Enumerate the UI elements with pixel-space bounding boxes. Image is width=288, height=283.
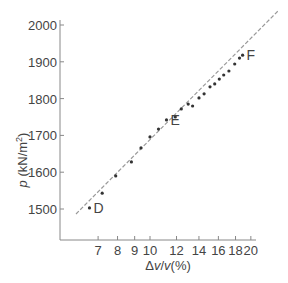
data-point xyxy=(208,85,211,88)
data-point xyxy=(130,160,133,163)
x-tick-label: 20 xyxy=(244,243,258,258)
data-point xyxy=(218,78,221,81)
x-axis-title: Δv/v(%) xyxy=(145,258,191,273)
point-label-d: D xyxy=(94,200,104,216)
x-tick-label: 18 xyxy=(228,243,242,258)
x-axis-ticks: 789101214161820 xyxy=(94,236,258,258)
x-tick-label: 12 xyxy=(169,243,183,258)
point-label-e: E xyxy=(170,112,179,128)
y-tick-label: 1800 xyxy=(28,92,57,107)
data-point xyxy=(191,104,194,107)
point-label-f: F xyxy=(247,47,256,63)
data-point xyxy=(203,92,206,95)
data-point xyxy=(148,135,151,138)
data-point xyxy=(241,54,244,57)
data-point xyxy=(180,107,183,110)
x-tick-label: 7 xyxy=(94,243,101,258)
x-tick-label: 14 xyxy=(192,243,206,258)
data-point xyxy=(222,73,225,76)
point-annotations: DEF xyxy=(94,47,256,216)
data-point xyxy=(101,192,104,195)
y-axis-ticks: 150016001700180019002000 xyxy=(28,18,64,217)
x-tick-label: 10 xyxy=(143,243,157,258)
data-point xyxy=(233,62,236,65)
data-points xyxy=(88,54,244,210)
data-point xyxy=(197,96,200,99)
data-point xyxy=(187,103,190,106)
y-tick-label: 1900 xyxy=(28,55,57,70)
scatter-chart: 150016001700180019002000 789101214161820… xyxy=(0,0,288,283)
data-point xyxy=(213,82,216,85)
data-point xyxy=(227,69,230,72)
data-point xyxy=(157,128,160,131)
data-point xyxy=(114,174,117,177)
x-tick-label: 9 xyxy=(131,243,138,258)
y-tick-label: 2000 xyxy=(28,18,57,33)
data-point xyxy=(165,118,168,121)
data-point xyxy=(238,57,241,60)
x-tick-label: 16 xyxy=(211,243,225,258)
data-point xyxy=(139,146,142,149)
y-tick-label: 1700 xyxy=(28,128,57,143)
y-tick-label: 1500 xyxy=(28,202,57,217)
x-tick-label: 8 xyxy=(114,243,121,258)
y-tick-label: 1600 xyxy=(28,165,57,180)
data-point xyxy=(88,206,91,209)
